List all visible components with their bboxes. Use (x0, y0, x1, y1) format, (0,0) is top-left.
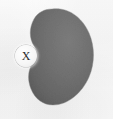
point-label-x-marker: X (15, 45, 37, 67)
point-label-x-text: X (22, 50, 31, 62)
blob-body (29, 9, 94, 105)
figure-container: X (0, 0, 113, 119)
